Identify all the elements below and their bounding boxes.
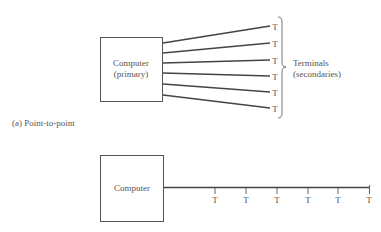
terminal-label: T xyxy=(272,88,278,98)
point-to-point-links xyxy=(163,26,270,108)
primary-computer-sublabel: (primary) xyxy=(114,69,148,79)
terminal-label: T xyxy=(366,195,372,205)
terminal-label: T xyxy=(335,195,341,205)
terminals-group-label: Terminals xyxy=(293,58,329,68)
terminal-label: T xyxy=(272,22,278,32)
terminal-label: T xyxy=(305,195,311,205)
terminal-labels-a: T T T T T T xyxy=(272,22,278,114)
link-3 xyxy=(163,60,270,63)
terminals-group-sublabel: (secondaries) xyxy=(293,69,341,79)
terminal-label: T xyxy=(274,195,280,205)
link-5 xyxy=(163,84,270,92)
network-diagram: Computer (primary) T T T T T T Terminals… xyxy=(0,0,381,232)
point-to-point-diagram: Computer (primary) T T T T T T Terminals… xyxy=(12,17,341,128)
terminal-labels-b: T T T T T T xyxy=(212,195,372,205)
terminal-label: T xyxy=(272,39,278,49)
terminal-label: T xyxy=(272,104,278,114)
link-4 xyxy=(163,73,270,76)
terminal-label: T xyxy=(212,195,218,205)
primary-computer-label: Computer xyxy=(113,58,149,68)
terminal-label: T xyxy=(243,195,249,205)
link-1 xyxy=(163,26,270,43)
link-6 xyxy=(163,95,270,108)
caption-point-to-point: (a) Point-to-point xyxy=(12,118,75,128)
curly-brace-icon xyxy=(278,17,286,118)
terminal-label: T xyxy=(272,56,278,66)
link-2 xyxy=(163,43,270,53)
multipoint-diagram: Computer T T T T T T xyxy=(101,156,373,222)
computer-label: Computer xyxy=(114,183,150,193)
terminal-label: T xyxy=(272,72,278,82)
bus-drops xyxy=(215,185,370,194)
